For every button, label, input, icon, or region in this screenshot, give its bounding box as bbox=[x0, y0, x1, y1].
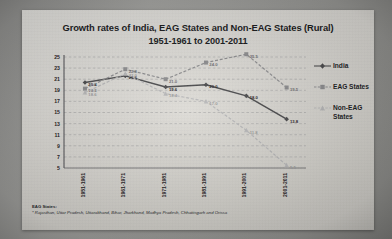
data-point-label: 11.8 bbox=[250, 130, 259, 135]
data-point-marker bbox=[204, 61, 208, 65]
svg-text:1951-1961: 1951-1961 bbox=[80, 173, 86, 197]
data-point-marker bbox=[123, 71, 128, 75]
svg-text:1981-1991: 1981-1991 bbox=[201, 173, 207, 197]
legend-swatch-india bbox=[314, 62, 331, 70]
data-point-marker bbox=[244, 52, 248, 56]
y-axis-tick-label: 25 bbox=[54, 54, 60, 60]
data-point-label: 19.6 bbox=[169, 87, 178, 92]
data-point-label: 25.5 bbox=[250, 54, 259, 59]
data-point-label: 19.5 bbox=[290, 87, 299, 92]
data-point-label: 17.0 bbox=[209, 101, 218, 106]
data-point-marker bbox=[83, 80, 88, 85]
y-axis-tick-label: 11 bbox=[55, 132, 61, 138]
data-point-marker bbox=[163, 85, 168, 90]
slide-card: Growth rates of India, EAG States and No… bbox=[22, 10, 374, 230]
legend-item-india[interactable]: India bbox=[314, 62, 372, 70]
legend-item-non-eag-states[interactable]: Non-EAG States bbox=[314, 104, 372, 120]
chart-title-line-1: Growth rates of India, EAG States and No… bbox=[22, 22, 374, 35]
chart-title-line-2: 1951-1961 to 2001-2011 bbox=[22, 35, 374, 48]
legend-label-non-eag-states: Non-EAG States bbox=[333, 104, 372, 120]
data-point-marker bbox=[285, 86, 289, 90]
legend-swatch-non-eag-states bbox=[314, 104, 331, 112]
x-axis-tick-label: 1981-1991 bbox=[201, 173, 207, 197]
y-axis-tick-label: 21 bbox=[54, 76, 60, 82]
data-point-marker bbox=[164, 77, 168, 81]
data-point-label: 22.0 bbox=[129, 73, 138, 78]
y-axis-tick-label: 17 bbox=[54, 98, 60, 104]
data-point-label: 21.0 bbox=[169, 79, 178, 84]
y-axis-tick-label: 9 bbox=[57, 143, 60, 149]
footnote: EAG States: * Rajasthan, Uttar Pradesh, … bbox=[32, 204, 332, 216]
data-point-marker bbox=[204, 82, 209, 87]
legend-label-india: India bbox=[333, 62, 348, 70]
svg-text:2001-2011: 2001-2011 bbox=[282, 173, 288, 197]
legend-label-eag-states: EAG States bbox=[333, 83, 369, 91]
data-point-label: 24.0 bbox=[209, 62, 218, 67]
series-line-eag-states bbox=[85, 54, 287, 88]
data-point-marker bbox=[83, 87, 87, 91]
x-axis-tick-label: 1951-1961 bbox=[80, 173, 86, 197]
legend-item-eag-states[interactable]: EAG States bbox=[314, 83, 372, 91]
data-point-label: 13.8 bbox=[290, 119, 299, 124]
data-point-label: 18.6 bbox=[88, 92, 97, 97]
y-axis-tick-label: 7 bbox=[57, 154, 60, 160]
y-axis-tick-label: 23 bbox=[54, 65, 60, 71]
chart-title: Growth rates of India, EAG States and No… bbox=[22, 22, 374, 47]
plot-area: 252321191715131197520.421.619.620.018.01… bbox=[38, 52, 318, 197]
data-point-label: 5.5 bbox=[290, 165, 296, 170]
data-point-marker bbox=[123, 67, 127, 71]
data-point-label: 18.0 bbox=[250, 95, 259, 100]
x-axis-tick-label: 1971-1981 bbox=[161, 173, 167, 197]
data-point-label: 20.0 bbox=[209, 84, 218, 89]
y-axis-tick-label: 19 bbox=[54, 87, 60, 93]
chart-legend: India EAG States Non-EAG States bbox=[314, 62, 372, 134]
line-chart: 252321191715131197520.421.619.620.018.01… bbox=[38, 52, 318, 197]
svg-text:1971-1981: 1971-1981 bbox=[161, 173, 167, 197]
y-axis-tick-label: 5 bbox=[57, 165, 60, 171]
x-axis-tick-label: 1991-2001 bbox=[241, 173, 247, 197]
x-axis-tick-label: 1961-1971 bbox=[120, 173, 126, 197]
data-point-label: 18.4 bbox=[169, 93, 178, 98]
legend-swatch-eag-states bbox=[314, 83, 331, 91]
svg-text:1961-1971: 1961-1971 bbox=[120, 173, 126, 197]
x-axis-tick-label: 2001-2011 bbox=[282, 173, 288, 197]
y-axis-tick-label: 13 bbox=[54, 121, 60, 127]
svg-text:1991-2001: 1991-2001 bbox=[241, 173, 247, 197]
series-line-non-eag-states bbox=[85, 74, 287, 166]
y-axis-tick-label: 15 bbox=[54, 109, 60, 115]
footnote-body: * Rajasthan, Uttar Pradesh, Uttarakhand,… bbox=[32, 210, 332, 216]
